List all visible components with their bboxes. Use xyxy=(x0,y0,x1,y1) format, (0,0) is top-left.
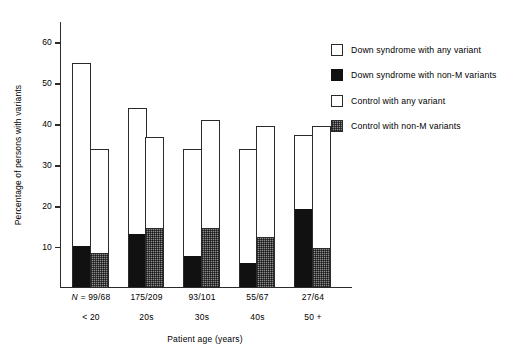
y-tick-mark xyxy=(55,206,60,207)
bar-down-syndrome xyxy=(72,63,91,288)
legend-label: Down syndrome with any variant xyxy=(351,45,481,55)
legend-swatch-gray-fill xyxy=(331,120,343,132)
category-label: 30s xyxy=(195,312,209,322)
bar-down-syndrome xyxy=(239,149,258,288)
legend-swatch-black-fill xyxy=(331,69,343,81)
n-count-value: 99/68 xyxy=(88,292,110,302)
bar-segment-control-nonm xyxy=(146,228,163,287)
bar-segment-control-nonm xyxy=(257,237,274,287)
chart-legend: Down syndrome with any variantDown syndr… xyxy=(331,43,496,145)
legend-label: Down syndrome with non-M variants xyxy=(351,70,496,80)
bar-group xyxy=(294,22,332,288)
legend-swatch-white-outline xyxy=(331,95,343,107)
n-count-value: 27/64 xyxy=(302,292,324,302)
y-tick-mark xyxy=(55,83,60,84)
y-tick-label: 50 xyxy=(42,78,52,88)
n-count-label: 27/64 xyxy=(302,292,324,302)
n-count-label: 175/209 xyxy=(130,292,162,302)
bar-down-syndrome xyxy=(294,135,313,288)
bar-down-syndrome xyxy=(183,149,202,288)
category-label: < 20 xyxy=(82,312,100,322)
category-label: 40s xyxy=(250,312,264,322)
bar-group xyxy=(128,22,166,288)
x-axis-title: Patient age (years) xyxy=(167,334,243,344)
y-tick-mark xyxy=(55,247,60,248)
legend-item: Control with non-M variants xyxy=(331,120,496,133)
bar-segment-down-syndrome-nonm xyxy=(129,234,146,287)
n-count-value: 175/209 xyxy=(130,292,162,302)
y-tick-mark xyxy=(55,124,60,125)
n-prefix: N = xyxy=(72,292,89,302)
y-tick-label: 40 xyxy=(42,119,52,129)
n-count-value: 93/101 xyxy=(188,292,215,302)
bar-control xyxy=(90,149,109,288)
bar-control xyxy=(256,126,275,288)
bar-group xyxy=(239,22,277,288)
y-axis-line xyxy=(60,22,61,288)
bar-segment-control-nonm xyxy=(91,253,108,287)
n-count-label: 93/101 xyxy=(188,292,215,302)
category-label: 20s xyxy=(139,312,153,322)
bar-group xyxy=(183,22,221,288)
bar-segment-down-syndrome-nonm xyxy=(295,209,312,287)
bar-control xyxy=(312,126,331,288)
y-tick-label: 20 xyxy=(42,201,52,211)
bar-control xyxy=(145,137,164,288)
bar-segment-control-nonm xyxy=(202,228,219,287)
bar-segment-down-syndrome-nonm xyxy=(240,263,257,287)
legend-item: Down syndrome with any variant xyxy=(331,43,496,56)
bar-segment-down-syndrome-nonm xyxy=(73,246,90,287)
legend-item: Down syndrome with non-M variants xyxy=(331,69,496,82)
bar-segment-down-syndrome-nonm xyxy=(184,256,201,288)
legend-swatch-white-outline xyxy=(331,44,343,56)
bar-control xyxy=(201,120,220,288)
y-tick-label: 30 xyxy=(42,160,52,170)
y-tick-mark xyxy=(55,42,60,43)
bar-segment-control-nonm xyxy=(313,248,330,287)
n-count-value: 55/67 xyxy=(246,292,268,302)
y-tick-label: 60 xyxy=(42,37,52,47)
n-count-label: N = 99/68 xyxy=(72,292,111,302)
category-label: 50 + xyxy=(304,312,322,322)
legend-label: Control with non-M variants xyxy=(351,121,461,131)
legend-item: Control with any variant xyxy=(331,94,496,107)
legend-label: Control with any variant xyxy=(351,96,445,106)
y-tick-label: 10 xyxy=(42,242,52,252)
chart-figure: Percentage of persons with variants 1020… xyxy=(0,0,510,350)
bar-group xyxy=(72,22,110,288)
plot-area: 102030405060 xyxy=(60,22,352,288)
y-axis-title: Percentage of persons with variants xyxy=(13,85,23,225)
bar-down-syndrome xyxy=(128,108,147,288)
n-count-label: 55/67 xyxy=(246,292,268,302)
y-tick-mark xyxy=(55,165,60,166)
